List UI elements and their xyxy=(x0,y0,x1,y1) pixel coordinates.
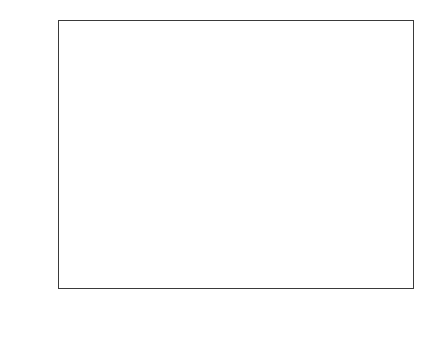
plot-area xyxy=(58,20,414,289)
x-axis-label xyxy=(0,316,426,327)
heatmap-image xyxy=(58,20,414,289)
figure xyxy=(0,0,426,338)
y-axis-label xyxy=(14,20,28,289)
